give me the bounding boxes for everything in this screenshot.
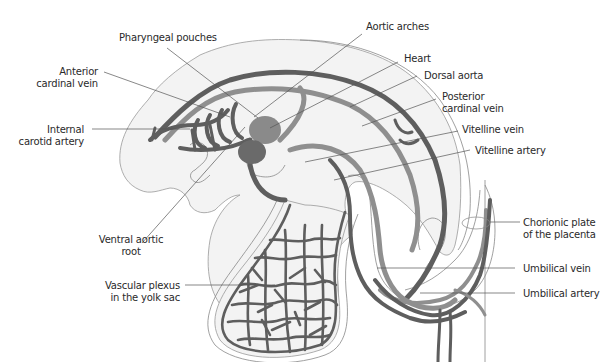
- label-vascular-plexus-2: in the yolk sac: [110, 292, 180, 303]
- label-ventral-aortic-root-2: root: [121, 246, 141, 257]
- label-aortic-arches: Aortic arches: [366, 21, 429, 32]
- label-vascular-plexus: Vascular plexus: [105, 280, 180, 291]
- label-umbilical-vein: Umbilical vein: [523, 263, 591, 274]
- label-umbilical-artery: Umbilical artery: [523, 288, 600, 299]
- label-chorionic-plate-2: of the placenta: [523, 229, 596, 240]
- label-vitelline-artery: Vitelline artery: [475, 145, 546, 156]
- embryonic-circulation-diagram: Pharyngeal pouches Anterior cardinal vei…: [0, 0, 615, 362]
- label-vitelline-vein: Vitelline vein: [462, 124, 524, 135]
- label-posterior-cardinal-vein-2: cardinal vein: [442, 103, 504, 114]
- label-internal-carotid-artery: Internal: [47, 124, 84, 135]
- label-anterior-cardinal-vein-2: cardinal vein: [36, 78, 98, 89]
- label-chorionic-plate: Chorionic plate: [523, 217, 596, 228]
- label-anterior-cardinal-vein: Anterior: [59, 66, 99, 77]
- label-internal-carotid-artery-2: carotid artery: [19, 136, 85, 147]
- label-ventral-aortic-root: Ventral aortic: [99, 234, 163, 245]
- label-pharyngeal-pouches: Pharyngeal pouches: [119, 32, 217, 43]
- label-heart: Heart: [404, 53, 431, 64]
- label-dorsal-aorta: Dorsal aorta: [424, 70, 483, 81]
- label-posterior-cardinal-vein: Posterior: [442, 91, 485, 102]
